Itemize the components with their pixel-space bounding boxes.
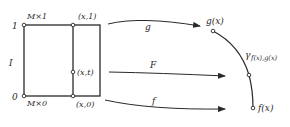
point-x0 <box>71 94 75 98</box>
arrow-f <box>105 100 225 109</box>
square-region <box>24 25 100 96</box>
label-m0: M×0 <box>26 99 47 108</box>
point-F-xt <box>247 73 251 77</box>
label-interval: I <box>8 58 13 68</box>
homotopy-diagram: M×1 M×0 I 1 0 (x,1) (x,t) (x,0) g F f g(… <box>0 0 290 127</box>
arrow-F <box>109 72 225 76</box>
point-x1 <box>71 23 75 27</box>
point-fx <box>251 106 255 110</box>
label-fx: f(x) <box>257 103 274 113</box>
label-gx: g(x) <box>206 16 224 26</box>
label-x0: (x,0) <box>76 100 94 109</box>
arrow-g-label: g <box>145 22 151 32</box>
label-xt: (x,t) <box>77 68 94 77</box>
arrow-g <box>108 20 200 26</box>
point-gx <box>211 29 215 33</box>
arrow-F-label: F <box>149 60 157 70</box>
corner-point-bottom <box>22 94 26 98</box>
label-m1: M×1 <box>26 12 47 21</box>
tick-1: 1 <box>12 21 18 31</box>
arrow-f-label: f <box>151 96 157 106</box>
path-gamma <box>213 31 253 108</box>
corner-point-top <box>22 23 26 27</box>
label-x1: (x,1) <box>78 12 96 21</box>
tick-0: 0 <box>12 92 18 102</box>
label-gamma-subscript: f(x),g(x) <box>250 54 278 62</box>
point-xt <box>71 70 75 74</box>
